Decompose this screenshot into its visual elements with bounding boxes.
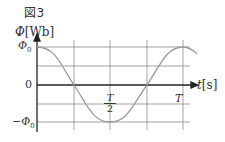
y-tick-zero: 0 xyxy=(25,78,32,91)
x-axis-label: t[s] xyxy=(197,78,217,92)
x-tick-half-period: T 2 xyxy=(104,93,116,114)
y-axis-arrow-icon xyxy=(34,34,40,41)
x-tick-period: T xyxy=(175,92,182,105)
y-tick-neg-phi0: −Φ0 xyxy=(12,115,35,130)
y-tick-phi0: Φ0 xyxy=(18,39,32,54)
